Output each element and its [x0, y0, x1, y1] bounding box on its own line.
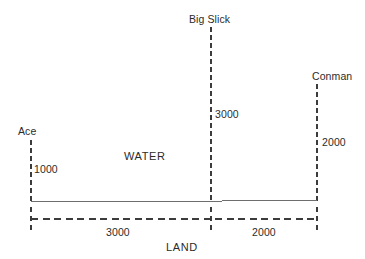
- depth-label-big-slick: 3000: [215, 109, 239, 120]
- surface-line: [31, 201, 317, 203]
- zone-label-water: WATER: [124, 151, 166, 162]
- span-label-big-slick-to-conman: 2000: [252, 227, 276, 238]
- drilling-diagram: Ace Big Slick Conman 1000 3000 2000 WATE…: [0, 0, 365, 259]
- span-label-ace-to-big-slick: 3000: [106, 227, 130, 238]
- depth-label-ace: 1000: [34, 164, 58, 175]
- well-label-big-slick: Big Slick: [189, 14, 230, 25]
- diagram-canvas: [0, 0, 365, 259]
- well-label-conman: Conman: [312, 71, 352, 82]
- well-label-ace: Ace: [18, 126, 36, 137]
- zone-label-land: LAND: [166, 242, 198, 253]
- depth-label-conman: 2000: [322, 137, 346, 148]
